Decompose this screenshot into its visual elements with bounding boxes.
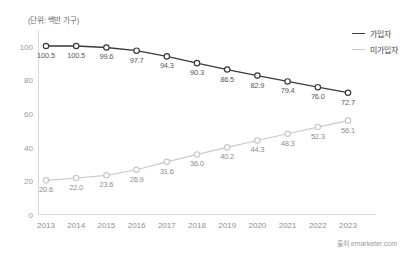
data-point-marker[interactable] — [164, 159, 169, 164]
x-axis-tick-label: 2019 — [218, 221, 236, 230]
data-point-label: 26.9 — [130, 175, 144, 184]
source-attribution: 출처 emarketer.com — [337, 238, 397, 248]
x-axis-tick-label: 2020 — [248, 221, 266, 230]
data-point-marker[interactable] — [74, 175, 79, 180]
data-point-marker[interactable] — [134, 48, 139, 53]
data-point-label: 22.0 — [69, 183, 83, 192]
x-axis-tick-label: 2017 — [158, 221, 176, 230]
x-axis-tick-label: 2014 — [67, 221, 85, 230]
data-point-label: 72.7 — [341, 98, 355, 107]
data-point-marker[interactable] — [225, 67, 230, 72]
y-axis-tick-label: 0 — [29, 211, 33, 220]
data-point-label: 20.6 — [39, 185, 53, 194]
data-point-marker[interactable] — [345, 90, 350, 95]
x-axis-tick-label: 2022 — [309, 221, 327, 230]
data-point-label: 76.0 — [311, 92, 325, 101]
data-point-marker[interactable] — [255, 138, 260, 143]
legend-label: 가입자 — [370, 28, 391, 39]
data-point-label: 79.4 — [281, 86, 295, 95]
chart-container: (단위: 백만 가구) 가입자 미가입자 020406080100 100.51… — [0, 0, 404, 253]
data-point-label: 48.3 — [281, 139, 295, 148]
data-point-label: 90.3 — [190, 68, 204, 77]
plot-area: 020406080100 100.5100.599.697.794.390.38… — [38, 30, 358, 215]
x-axis-ticks: 2013201420152016201720182019202020212022… — [38, 215, 358, 231]
legend-item-nonsubscribers[interactable]: 미가입자 — [352, 44, 398, 55]
y-axis-tick-label: 100 — [20, 42, 33, 51]
y-axis-tick-label: 40 — [24, 143, 33, 152]
y-axis-tick-label: 20 — [24, 177, 33, 186]
data-point-marker[interactable] — [194, 152, 199, 157]
data-point-label: 52.3 — [311, 132, 325, 141]
x-axis-tick-label: 2015 — [97, 221, 115, 230]
data-point-marker[interactable] — [194, 60, 199, 65]
data-point-marker[interactable] — [345, 118, 350, 123]
data-point-label: 44.3 — [250, 145, 264, 154]
unit-label: (단위: 백만 가구) — [28, 14, 79, 25]
data-point-marker[interactable] — [285, 131, 290, 136]
data-point-label: 40.2 — [220, 152, 234, 161]
legend-label: 미가입자 — [370, 44, 398, 55]
data-point-label: 100.5 — [37, 51, 55, 60]
data-point-label: 56.1 — [341, 126, 355, 135]
x-axis-tick-label: 2021 — [279, 221, 297, 230]
data-point-marker[interactable] — [285, 79, 290, 84]
data-point-marker[interactable] — [74, 43, 79, 48]
x-axis-tick-label: 2018 — [188, 221, 206, 230]
series-lines — [38, 30, 358, 215]
y-axis-tick-label: 80 — [24, 76, 33, 85]
data-point-label: 31.6 — [160, 167, 174, 176]
data-point-marker[interactable] — [255, 73, 260, 78]
data-point-label: 99.6 — [99, 52, 113, 61]
data-point-marker[interactable] — [43, 43, 48, 48]
chart-legend: 가입자 미가입자 — [352, 28, 398, 55]
data-point-marker[interactable] — [164, 54, 169, 59]
data-point-marker[interactable] — [134, 167, 139, 172]
legend-item-subscribers[interactable]: 가입자 — [352, 28, 398, 39]
data-point-marker[interactable] — [104, 173, 109, 178]
data-point-label: 100.5 — [67, 51, 85, 60]
data-point-marker[interactable] — [43, 178, 48, 183]
data-point-marker[interactable] — [225, 145, 230, 150]
data-point-marker[interactable] — [315, 84, 320, 89]
data-point-label: 36.0 — [190, 159, 204, 168]
data-point-label: 82.9 — [250, 81, 264, 90]
data-point-label: 23.6 — [99, 180, 113, 189]
series-line-nonsubscribers — [46, 121, 348, 181]
x-axis-tick-label: 2013 — [37, 221, 55, 230]
y-axis-tick-label: 60 — [24, 110, 33, 119]
x-axis-tick-label: 2023 — [339, 221, 357, 230]
data-point-label: 94.3 — [160, 61, 174, 70]
data-point-marker[interactable] — [315, 124, 320, 129]
x-axis-tick-label: 2016 — [128, 221, 146, 230]
data-point-label: 97.7 — [130, 56, 144, 65]
data-point-label: 86.5 — [220, 75, 234, 84]
data-point-marker[interactable] — [104, 45, 109, 50]
